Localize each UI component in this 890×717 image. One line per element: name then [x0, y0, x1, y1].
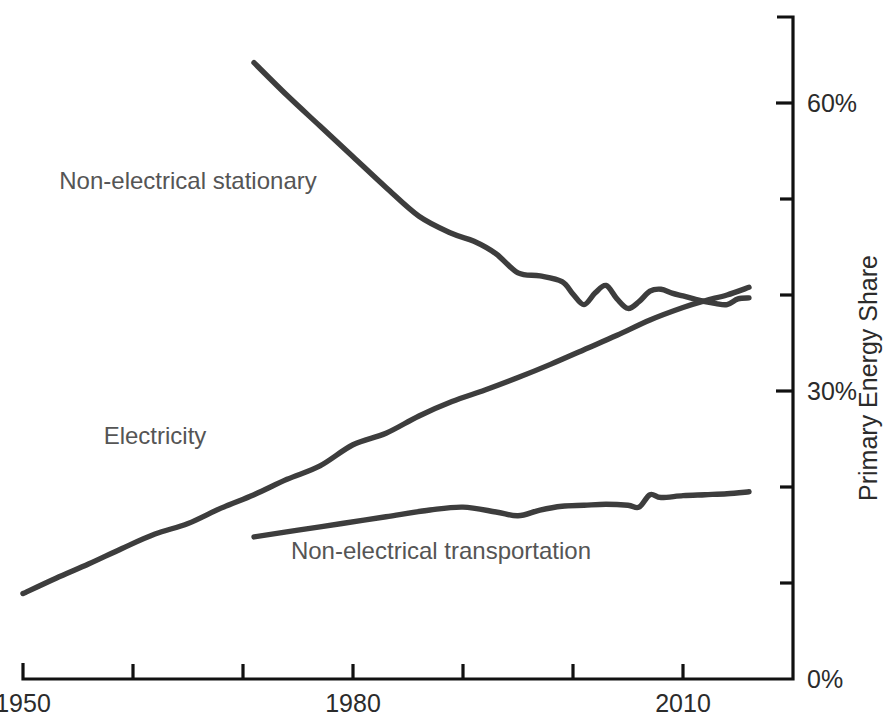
chart-container: 19501980201060%30%0%Primary Energy Share… — [0, 0, 890, 717]
line-chart: 19501980201060%30%0%Primary Energy Share… — [0, 0, 890, 717]
series-line-2 — [254, 492, 749, 537]
series-label-1: Electricity — [104, 422, 207, 449]
y-axis-title: Primary Energy Share — [854, 255, 882, 501]
x-axis-tick-label: 2010 — [655, 689, 711, 717]
series-label-2: Non-electrical transportation — [291, 537, 591, 564]
x-axis-tick-label: 1980 — [325, 689, 381, 717]
series-line-0 — [254, 63, 749, 309]
y-axis-tick-label: 60% — [807, 89, 857, 117]
series-label-0: Non-electrical stationary — [59, 167, 316, 194]
y-axis-tick-label: 30% — [807, 377, 857, 405]
chart-series — [23, 63, 749, 594]
axis-frame — [23, 17, 793, 679]
y-axis-tick-label: 0% — [807, 665, 843, 693]
chart-axes — [23, 17, 793, 679]
chart-text-labels: 19501980201060%30%0%Primary Energy Share… — [0, 89, 882, 717]
x-axis-tick-label: 1950 — [0, 689, 51, 717]
